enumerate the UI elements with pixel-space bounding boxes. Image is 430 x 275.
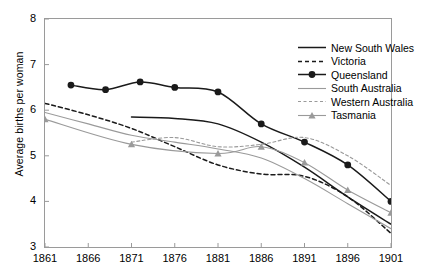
series-new-south-wales: [132, 117, 392, 224]
y-axis-tick-3: 3: [14, 241, 36, 252]
series-victoria: [45, 103, 391, 233]
dashed-black-line-icon: [297, 55, 327, 68]
legend-item-tasmania[interactable]: Tasmania: [297, 109, 430, 123]
legend-label: Tasmania: [327, 109, 376, 121]
legend-label: South Australia: [327, 82, 402, 94]
series-south-australia: [45, 112, 391, 228]
dashed-gray-line-icon: [297, 95, 327, 108]
legend-label: Victoria: [327, 55, 366, 67]
solid-black-line-circle-icon: [297, 68, 327, 81]
y-axis-tick-7: 7: [14, 59, 36, 70]
series-tasmania: [45, 116, 391, 216]
y-axis-tick-8: 8: [14, 13, 36, 24]
legend-label: Queensland: [327, 69, 388, 81]
legend: New South WalesVictoriaQueenslandSouth A…: [297, 41, 430, 122]
legend-item-south-australia[interactable]: South Australia: [297, 82, 430, 96]
legend-item-new-south-wales[interactable]: New South Wales: [297, 41, 430, 55]
legend-item-victoria[interactable]: Victoria: [297, 55, 430, 69]
solid-black-line-icon: [297, 41, 327, 54]
solid-gray-line-icon: [297, 82, 327, 95]
fertility-line-chart: Average births per woman 876543 18611866…: [0, 0, 430, 275]
legend-item-queensland[interactable]: Queensland: [297, 68, 430, 82]
x-axis-tick-1901: 1901: [366, 253, 416, 264]
y-axis-tick-4: 4: [14, 195, 36, 206]
y-axis-tick-6: 6: [14, 104, 36, 115]
plot-area: New South WalesVictoriaQueenslandSouth A…: [44, 18, 392, 248]
legend-item-western-australia[interactable]: Western Australia: [297, 95, 430, 109]
solid-gray-line-triangle-icon: [297, 109, 327, 122]
legend-label: Western Australia: [327, 96, 413, 108]
legend-label: New South Wales: [327, 42, 414, 54]
y-axis-tick-5: 5: [14, 150, 36, 161]
